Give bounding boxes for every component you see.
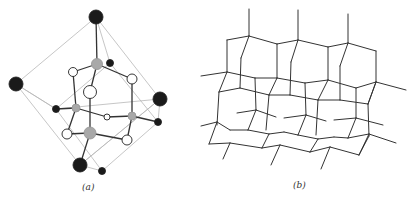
unit-cell-diagram bbox=[0, 0, 200, 203]
lattice-bond bbox=[316, 100, 318, 135]
lattice-bond bbox=[227, 36, 249, 40]
lattice-bond bbox=[318, 137, 334, 139]
lattice-bond bbox=[223, 143, 230, 159]
lattice-bond bbox=[240, 58, 241, 88]
bond bbox=[73, 72, 76, 108]
cube-edge bbox=[16, 17, 96, 84]
lattice-bond bbox=[262, 134, 269, 148]
cube-edge bbox=[102, 122, 158, 171]
lattice-bond bbox=[219, 88, 240, 92]
lattice-bond bbox=[219, 72, 227, 92]
cube-edge bbox=[96, 17, 160, 99]
lattice-bond bbox=[248, 110, 256, 130]
lattice-bond bbox=[334, 118, 356, 120]
lattice-bond bbox=[269, 78, 277, 95]
panel-b-lattice-network: (b) bbox=[200, 0, 417, 203]
lattice-bond bbox=[306, 115, 326, 121]
lattice-bond bbox=[241, 36, 249, 58]
lattice-bond bbox=[334, 137, 348, 138]
lattice-bond bbox=[240, 88, 269, 95]
lattice-bond bbox=[356, 82, 376, 88]
lattice-bond bbox=[328, 80, 356, 88]
lattice-bond bbox=[290, 62, 291, 95]
lattice-bond bbox=[359, 136, 369, 155]
lattice-bond bbox=[348, 43, 376, 51]
lattice-bond bbox=[290, 95, 318, 100]
black-atom bbox=[155, 119, 162, 126]
lattice-bond bbox=[368, 104, 369, 136]
black-atom bbox=[53, 106, 60, 113]
lattice-bond bbox=[291, 40, 298, 62]
grey-atom bbox=[84, 127, 96, 139]
lattice-bond bbox=[262, 145, 280, 148]
black-atom bbox=[89, 10, 103, 24]
lattice-bond bbox=[340, 100, 368, 104]
lattice-bond bbox=[321, 147, 330, 169]
black-atom bbox=[107, 60, 114, 67]
lattice-bond bbox=[201, 72, 227, 76]
lattice-bond bbox=[284, 132, 298, 135]
lattice-bond bbox=[328, 43, 348, 47]
black-atom bbox=[99, 168, 106, 175]
lattice-bond bbox=[318, 80, 328, 100]
black-atom bbox=[73, 158, 87, 172]
lattice-bond bbox=[298, 135, 318, 139]
lattice-bond bbox=[348, 134, 369, 138]
lattice-bond bbox=[340, 43, 348, 66]
lattice-bond bbox=[255, 78, 256, 110]
lattice-bond bbox=[298, 40, 328, 47]
lattice-bond bbox=[266, 95, 269, 130]
white-atom bbox=[122, 135, 132, 145]
white-atom bbox=[127, 74, 137, 84]
lattice-bond bbox=[305, 80, 328, 83]
lattice-bond bbox=[305, 83, 306, 115]
lattice-bond bbox=[298, 115, 306, 135]
lattice-bond bbox=[356, 118, 383, 125]
black-atom bbox=[153, 92, 167, 106]
caption-b: (b) bbox=[293, 180, 306, 190]
lattice-bond bbox=[271, 145, 280, 165]
grey-atom bbox=[128, 112, 136, 120]
grey-atom bbox=[72, 104, 80, 112]
lattice-bond bbox=[368, 82, 376, 104]
lattice-bond bbox=[369, 134, 396, 143]
black-atom bbox=[9, 77, 23, 91]
lattice-bond bbox=[248, 130, 269, 134]
lattice-bond bbox=[277, 78, 305, 83]
lattice-bond bbox=[209, 143, 230, 144]
lattice-bond bbox=[284, 115, 306, 118]
lattice-bond bbox=[269, 132, 284, 134]
caption-a: (a) bbox=[82, 182, 94, 192]
grey-atom bbox=[92, 59, 103, 70]
lattice-network-diagram bbox=[200, 0, 417, 203]
lattice-bond bbox=[201, 122, 217, 126]
lattice-bond bbox=[348, 118, 356, 138]
lattice-bond bbox=[256, 110, 276, 117]
white-atom bbox=[104, 114, 110, 120]
lattice-bond bbox=[249, 36, 277, 44]
lattice-bond bbox=[330, 147, 359, 155]
lattice-bond bbox=[217, 92, 219, 125]
white-atom bbox=[84, 86, 97, 99]
lattice-bond bbox=[230, 143, 262, 148]
lattice-bond bbox=[209, 122, 217, 144]
lattice-bond bbox=[376, 82, 406, 90]
lattice-bond bbox=[217, 122, 230, 130]
cube-edge bbox=[56, 63, 110, 109]
lattice-bond bbox=[277, 40, 298, 44]
bond bbox=[76, 108, 107, 117]
lattice-bond bbox=[280, 145, 310, 152]
panel-a-crystal-unit-cell: (a) bbox=[0, 0, 200, 203]
lattice-bond bbox=[237, 110, 256, 113]
white-atom bbox=[62, 129, 72, 139]
white-atom bbox=[69, 68, 78, 77]
